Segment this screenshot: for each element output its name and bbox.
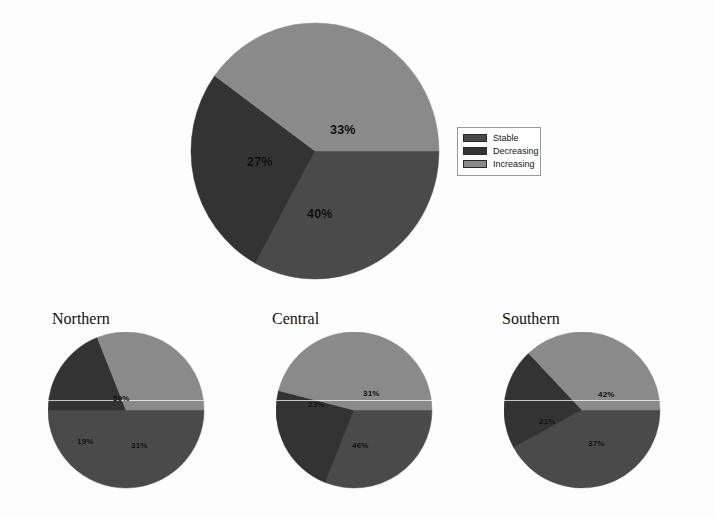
legend-label-decreasing: Decreasing bbox=[493, 146, 539, 156]
northern-title: Northern bbox=[52, 310, 110, 328]
southern-pie-graphic bbox=[504, 332, 661, 489]
southern-label-decreasing: 21% bbox=[539, 417, 556, 426]
legend-swatch-decreasing bbox=[463, 147, 487, 155]
northern-label-stable: 50% bbox=[113, 394, 130, 403]
legend: Stable Decreasing Increasing bbox=[457, 127, 541, 176]
southern-label-increasing: 37% bbox=[588, 439, 605, 448]
legend-label-stable: Stable bbox=[493, 133, 519, 143]
overall-pie-graphic bbox=[190, 22, 440, 280]
southern-pie-chart: Southern 42% 21% 37% bbox=[476, 310, 676, 510]
pie-slice-stable bbox=[48, 410, 204, 488]
southern-label-stable: 42% bbox=[598, 390, 615, 399]
legend-swatch-increasing bbox=[463, 160, 487, 168]
overall-pie-chart: 33% 27% 40% bbox=[190, 22, 440, 280]
northern-label-decreasing: 19% bbox=[77, 437, 94, 446]
legend-item-decreasing: Decreasing bbox=[463, 145, 535, 157]
northern-pie-graphic bbox=[48, 332, 205, 489]
northern-pie-chart: Northern 50% 19% 31% bbox=[22, 310, 222, 510]
southern-title: Southern bbox=[502, 310, 560, 328]
overall-label-stable: 33% bbox=[330, 123, 356, 137]
northern-label-increasing: 31% bbox=[131, 441, 148, 450]
central-pie-graphic bbox=[276, 332, 433, 489]
central-label-increasing: 46% bbox=[352, 441, 369, 450]
legend-swatch-stable bbox=[463, 134, 487, 142]
legend-item-increasing: Increasing bbox=[463, 158, 535, 170]
central-label-decreasing: 23% bbox=[308, 400, 325, 409]
overall-label-increasing: 40% bbox=[307, 207, 333, 221]
overall-label-decreasing: 27% bbox=[247, 155, 273, 169]
figure-canvas: 33% 27% 40% Stable Decreasing Increasing… bbox=[0, 0, 714, 518]
legend-item-stable: Stable bbox=[463, 132, 535, 144]
central-pie-chart: Central 31% 23% 46% bbox=[248, 310, 448, 510]
legend-label-increasing: Increasing bbox=[493, 159, 535, 169]
central-label-stable: 31% bbox=[363, 389, 380, 398]
central-title: Central bbox=[272, 310, 319, 328]
